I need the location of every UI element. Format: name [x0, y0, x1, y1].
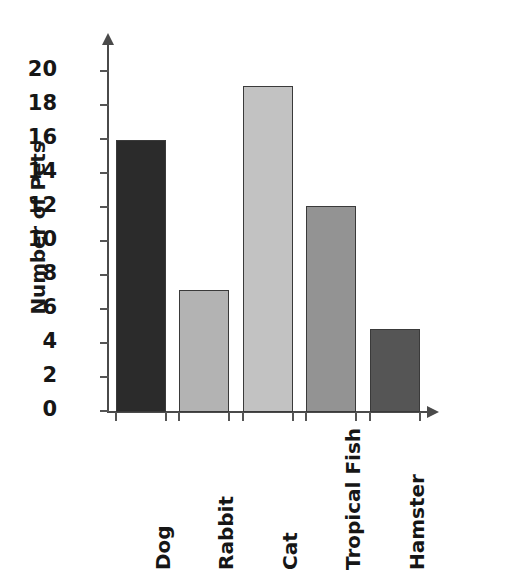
x-tick-mark [178, 412, 180, 421]
x-tick-mark [305, 412, 307, 421]
x-axis-label-hamster: Hamster [405, 400, 429, 570]
x-axis-label-rabbit: Rabbit [214, 400, 238, 570]
bar-dog [116, 140, 166, 412]
x-axis-label-cat: Cat [278, 400, 302, 570]
plot-area [0, 0, 507, 412]
x-tick-mark [369, 412, 371, 421]
x-tick-mark [115, 412, 117, 421]
x-axis-label-tropical-fish: Tropical Fish [341, 400, 365, 570]
x-tick-mark [242, 412, 244, 421]
bar-tropical-fish [306, 206, 356, 412]
bar-cat [243, 86, 293, 412]
bar-chart: Number of Pets 02468101214161820 DogRabb… [0, 0, 507, 580]
x-axis-label-dog: Dog [151, 400, 175, 570]
bar-rabbit [179, 290, 229, 412]
